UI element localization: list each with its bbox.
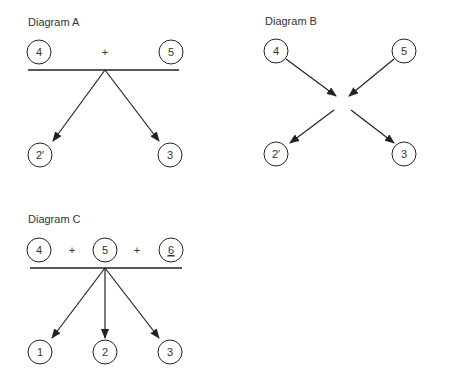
node-label: 2	[102, 346, 108, 358]
diagram-c-product-2: 2	[93, 340, 117, 364]
diagram-c: Diagram C 4 + 5 + 6 1 2 3	[27, 213, 183, 364]
diagram-a-reactant-5: 5	[159, 40, 183, 64]
arrow-to-3	[351, 110, 394, 143]
diagram-b: Diagram B 4 5 2′ 3	[264, 15, 416, 166]
node-label: 3	[401, 148, 407, 160]
diagram-a-product-2prime: 2′	[28, 143, 52, 167]
diagram-canvas: Diagram A 4 + 5 2′ 3 Diagram B 4	[0, 0, 451, 380]
diagram-c-product-1: 1	[28, 340, 52, 364]
diagram-a-product-3: 3	[158, 143, 182, 167]
node-label: 4	[36, 244, 42, 256]
node-label: 3	[167, 149, 173, 161]
node-label: 5	[401, 45, 407, 57]
node-label: 2′	[272, 148, 280, 160]
diagram-b-product-2prime: 2′	[264, 142, 288, 166]
node-label: 4	[273, 45, 279, 57]
diagram-c-reactant-5: 5	[93, 238, 117, 262]
arrow-from-5	[349, 59, 394, 96]
diagram-c-reactant-6: 6	[159, 238, 183, 262]
diagram-c-product-3: 3	[158, 340, 182, 364]
plus-sign: +	[69, 244, 75, 256]
node-label: 4	[36, 46, 42, 58]
diagram-a-reactant-4: 4	[27, 40, 51, 64]
arrow-to-3	[105, 268, 159, 338]
diagram-c-title: Diagram C	[28, 213, 81, 225]
node-label-underlined: 6	[168, 244, 174, 256]
arrow-to-1	[52, 268, 105, 338]
node-label: 5	[102, 244, 108, 256]
diagram-b-reactant-4: 4	[264, 39, 288, 63]
node-label: 2′	[36, 149, 44, 161]
arrow-to-3	[105, 70, 159, 141]
node-label: 1	[37, 346, 43, 358]
plus-sign: +	[134, 244, 140, 256]
diagram-c-reactant-4: 4	[27, 238, 51, 262]
plus-sign: +	[102, 46, 108, 58]
arrow-to-2prime	[53, 70, 105, 141]
diagram-a: Diagram A 4 + 5 2′ 3	[27, 16, 183, 167]
diagram-a-title: Diagram A	[28, 16, 80, 28]
diagram-b-reactant-5: 5	[392, 39, 416, 63]
node-label: 3	[167, 346, 173, 358]
node-label: 5	[168, 46, 174, 58]
diagram-b-product-3: 3	[392, 142, 416, 166]
arrow-from-4	[286, 59, 336, 96]
arrow-to-2prime	[290, 110, 334, 143]
diagram-b-title: Diagram B	[265, 15, 317, 27]
